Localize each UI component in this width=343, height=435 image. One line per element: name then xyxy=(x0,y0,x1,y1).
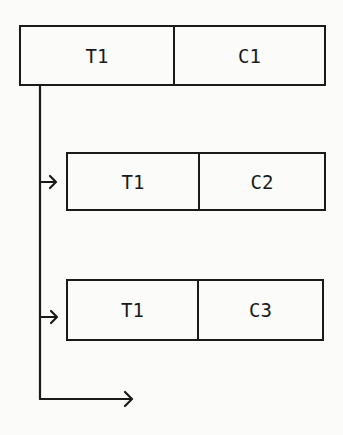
field-c2: C2 xyxy=(198,154,324,209)
record-child-1: T1 C2 xyxy=(66,152,326,211)
record-child-2: T1 C3 xyxy=(66,279,324,341)
field-c1: C1 xyxy=(173,27,324,84)
field-t1: T1 xyxy=(21,27,173,84)
field-t1: T1 xyxy=(68,154,198,209)
field-t1: T1 xyxy=(68,281,197,339)
record-root: T1 C1 xyxy=(19,25,326,86)
field-c3: C3 xyxy=(197,281,322,339)
